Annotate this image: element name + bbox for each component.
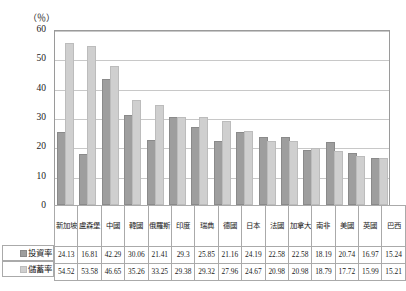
table-cell-savings: 15.99	[359, 264, 382, 281]
table-row-savings: 54.5253.5846.6535.2633.2529.3829.3227.96…	[55, 264, 406, 281]
table-cell-savings: 27.96	[218, 264, 241, 281]
legend-label-savings: 儲蓄率	[28, 265, 52, 274]
table-header-cell: 南非	[312, 206, 335, 247]
bar-group	[301, 31, 323, 205]
table-cell-savings: 29.32	[195, 264, 218, 281]
table-cell-investment: 16.97	[359, 247, 382, 264]
legend-swatch-investment-icon	[20, 250, 27, 257]
legend-swatch-savings-icon	[20, 266, 27, 273]
table-header-cell: 英國	[359, 206, 382, 247]
bar-savings	[177, 117, 186, 205]
bar-savings	[132, 100, 141, 205]
bars-layer	[55, 31, 389, 205]
table-cell-investment: 15.24	[382, 247, 405, 264]
bar-savings	[65, 43, 74, 205]
table-cell-savings: 54.52	[55, 264, 78, 281]
table-header-cell: 新加坡	[55, 206, 78, 247]
bar-group	[369, 31, 391, 205]
y-axis-tick-40: 40	[37, 84, 47, 94]
bar-savings	[222, 121, 231, 205]
bar-group	[145, 31, 167, 205]
bar-savings	[311, 148, 320, 205]
y-axis-tick-10: 10	[37, 172, 47, 182]
table-cell-savings: 29.38	[171, 264, 194, 281]
table-cell-investment: 24.13	[55, 247, 78, 264]
table-cell-investment: 18.19	[312, 247, 335, 264]
table-cell-investment: 22.58	[288, 247, 311, 264]
bar-group	[55, 31, 77, 205]
bar-group	[167, 31, 189, 205]
bar-savings	[87, 46, 96, 205]
bar-group	[234, 31, 256, 205]
table-header-cell: 中國	[101, 206, 124, 247]
bar-group	[257, 31, 279, 205]
legend-savings: 儲蓄率	[2, 261, 54, 277]
table-header-cell: 日本	[242, 206, 265, 247]
legend-label-investment: 投資率	[28, 249, 52, 258]
table-header-cell: 美國	[335, 206, 358, 247]
legend-spacer	[2, 205, 54, 245]
legend-investment: 投資率	[2, 245, 54, 261]
table-cell-investment: 42.29	[101, 247, 124, 264]
series-legend-column: 投資率 儲蓄率	[2, 205, 54, 277]
table-header-cell: 法國	[265, 206, 288, 247]
bar-savings	[199, 117, 208, 205]
y-axis-tick-50: 50	[37, 55, 47, 65]
table-cell-investment: 22.58	[265, 247, 288, 264]
table-header-cell: 印度	[171, 206, 194, 247]
table-cell-savings: 15.21	[382, 264, 405, 281]
table-row-categories: 新加坡盧森堡中國韓國俄羅斯印度瑞典德國日本法國加拿大南非美國英國巴西	[55, 206, 406, 247]
bar-savings	[289, 141, 298, 205]
table-header-cell: 俄羅斯	[148, 206, 171, 247]
y-axis-tick-labels: 0102030405060	[0, 30, 50, 206]
table-cell-savings: 20.98	[288, 264, 311, 281]
table-header-cell: 韓國	[125, 206, 148, 247]
bar-savings	[334, 151, 343, 205]
bar-savings	[356, 156, 365, 205]
table-cell-savings: 35.26	[125, 264, 148, 281]
bar-group	[346, 31, 368, 205]
table-cell-investment: 20.74	[335, 247, 358, 264]
table-cell-savings: 24.67	[242, 264, 265, 281]
table-header-cell: 德國	[218, 206, 241, 247]
table-cell-savings: 53.58	[78, 264, 101, 281]
y-axis-tick-30: 30	[37, 113, 47, 123]
table-header-cell: 巴西	[382, 206, 405, 247]
table-header-cell: 盧森堡	[78, 206, 101, 247]
table-cell-investment: 29.3	[171, 247, 194, 264]
y-axis-tick-20: 20	[37, 143, 47, 153]
bar-group	[324, 31, 346, 205]
bar-group	[212, 31, 234, 205]
table-cell-savings: 33.25	[148, 264, 171, 281]
bar-group	[100, 31, 122, 205]
bar-savings	[110, 66, 119, 205]
data-table: 新加坡盧森堡中國韓國俄羅斯印度瑞典德國日本法國加拿大南非美國英國巴西 24.13…	[54, 205, 406, 281]
table-row-investment: 24.1316.8142.2930.0621.4129.325.8521.162…	[55, 247, 406, 264]
bar-savings	[267, 141, 276, 205]
y-axis-unit-label: （％）	[28, 11, 55, 24]
bar-savings	[379, 158, 388, 205]
bar-group	[189, 31, 211, 205]
table-header-cell: 瑞典	[195, 206, 218, 247]
table-cell-investment: 16.81	[78, 247, 101, 264]
bar-savings	[155, 105, 164, 205]
bar-group	[279, 31, 301, 205]
chart-plot-area	[54, 30, 390, 206]
table-cell-savings: 17.72	[335, 264, 358, 281]
y-axis-tick-60: 60	[37, 25, 47, 35]
bar-group	[122, 31, 144, 205]
bar-savings	[244, 131, 253, 205]
table-cell-savings: 18.79	[312, 264, 335, 281]
table-cell-savings: 46.65	[101, 264, 124, 281]
table-cell-savings: 20.98	[265, 264, 288, 281]
bar-group	[77, 31, 99, 205]
table-cell-investment: 21.41	[148, 247, 171, 264]
table-cell-investment: 24.19	[242, 247, 265, 264]
table-cell-investment: 25.85	[195, 247, 218, 264]
table-header-cell: 加拿大	[288, 206, 311, 247]
table-cell-investment: 21.16	[218, 247, 241, 264]
table-cell-investment: 30.06	[125, 247, 148, 264]
